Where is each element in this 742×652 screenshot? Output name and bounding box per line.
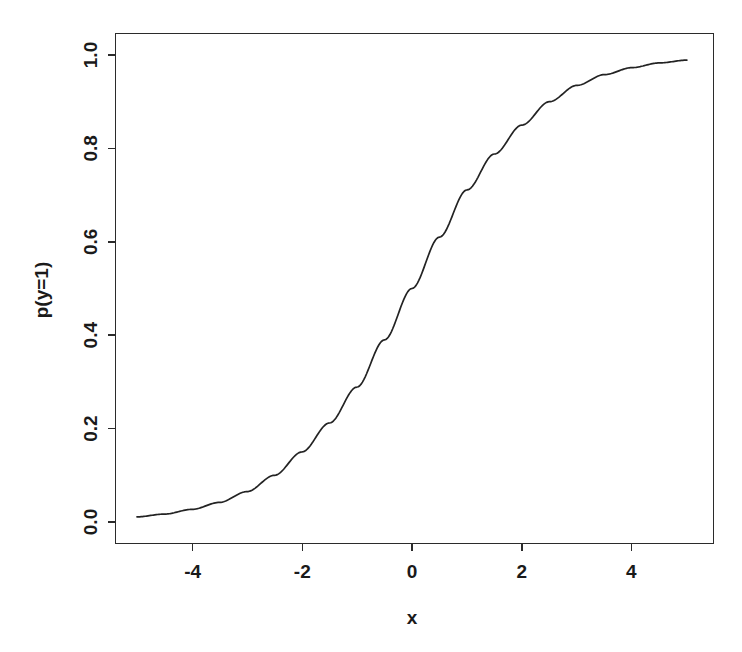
- x-tick-label-4: 4: [626, 561, 637, 582]
- y-tick-label-4: 0.8: [80, 135, 101, 161]
- y-tick-label-5: 1.0: [80, 42, 101, 68]
- y-tick-label-1: 0.2: [80, 415, 101, 441]
- logistic-curve-line: [137, 60, 687, 517]
- figure-canvas: 0.0 0.2 0.4 0.6 0.8 1.0 -4 -2 0 2 4 x p(…: [0, 0, 742, 652]
- y-tick-label-3: 0.6: [80, 229, 101, 255]
- y-axis-ticks: [108, 55, 115, 522]
- x-tick-label-3: 2: [516, 561, 527, 582]
- plot-frame: [116, 34, 714, 544]
- x-tick-label-1: -2: [294, 561, 311, 582]
- x-tick-label-2: 0: [407, 561, 418, 582]
- x-tick-label-0: -4: [184, 561, 201, 582]
- y-tick-label-0: 0.0: [80, 509, 101, 535]
- y-tick-label-2: 0.4: [80, 322, 101, 349]
- x-axis-tick-labels: -4 -2 0 2 4: [184, 561, 637, 582]
- y-axis-tick-labels: 0.0 0.2 0.4 0.6 0.8 1.0: [80, 42, 101, 535]
- x-axis-title: x: [407, 607, 418, 628]
- logistic-curve-plot: 0.0 0.2 0.4 0.6 0.8 1.0 -4 -2 0 2 4 x p(…: [0, 0, 742, 652]
- y-axis-title: p(y=1): [31, 262, 52, 319]
